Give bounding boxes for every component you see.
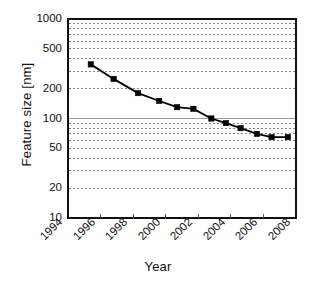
gridlines — [69, 19, 295, 218]
feature-size-chart: Feature size [nm] Year 10005002001005020… — [0, 0, 316, 285]
plot-area — [0, 0, 316, 285]
